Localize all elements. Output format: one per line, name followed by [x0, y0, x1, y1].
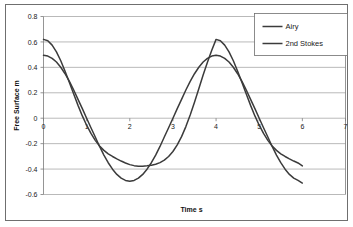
y-tick-label: 0.4	[28, 64, 38, 71]
y-tick-label: 0	[34, 115, 38, 122]
y-tick-label: -0.4	[25, 166, 37, 173]
x-axis-title: Time s	[180, 206, 202, 213]
x-tick-label: 4	[214, 123, 218, 130]
series-line-airy	[44, 55, 303, 183]
legend-box	[255, 14, 348, 56]
y-axis-tick-labels: -0.6-0.4-0.200.20.40.60.8	[25, 13, 37, 198]
y-tick-label: 0.6	[28, 39, 38, 46]
axis-titles: Time sFree Surface m	[13, 80, 203, 213]
y-tick-label: -0.6	[25, 191, 37, 198]
x-tick-label: 2	[128, 123, 132, 130]
chart-legend: Airy2nd Stokes	[255, 14, 348, 56]
series-line-2nd-stokes	[44, 39, 303, 166]
data-series	[44, 39, 303, 183]
y-tick-label: 0.8	[28, 13, 38, 20]
x-tick-label: 0	[42, 123, 46, 130]
x-tick-label: 6	[300, 123, 304, 130]
y-tick-label: 0.2	[28, 89, 38, 96]
chart-plot-area: -0.6-0.4-0.200.20.40.60.8 01234567 Time …	[0, 0, 353, 227]
legend-label-airy: Airy	[286, 22, 299, 31]
y-tick-label: -0.2	[25, 140, 37, 147]
x-tick-label: 3	[171, 123, 175, 130]
y-axis-title: Free Surface m	[13, 80, 20, 131]
legend-label-2nd-stokes: 2nd Stokes	[286, 39, 324, 48]
x-tick-label: 7	[344, 123, 348, 130]
chart-container: -0.6-0.4-0.200.20.40.60.8 01234567 Time …	[0, 0, 353, 227]
